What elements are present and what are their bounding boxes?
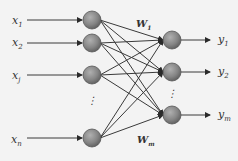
input-label-x2: x2: [12, 36, 23, 51]
input-arrows: [27, 20, 82, 138]
output-ellipsis: ⋮: [167, 88, 177, 99]
output-arrows: [181, 40, 210, 115]
connection-edges: [100, 20, 163, 138]
input-label-xn: xn: [11, 133, 22, 148]
input-labels: x1 x2 xj xn: [11, 14, 23, 148]
connection-edge: [100, 75, 163, 115]
output-label-y2: y2: [217, 65, 229, 80]
output-node: [163, 106, 181, 124]
connection-edge: [100, 20, 163, 72]
connection-edge: [100, 72, 163, 75]
output-label-y1: y1: [217, 33, 229, 48]
input-label-xj: xj: [12, 69, 21, 84]
neural-network-diagram: ⋮ ⋮ x1 x2 xj xn y1 y2 ym W1 Wm: [0, 0, 238, 161]
connection-edge: [100, 20, 163, 40]
output-label-ym: ym: [217, 108, 231, 123]
hidden-layer: [83, 11, 101, 147]
input-label-x1: x1: [12, 14, 23, 29]
network-graphic: ⋮ ⋮ x1 x2 xj xn y1 y2 ym W1 Wm: [0, 0, 238, 161]
output-node: [163, 31, 181, 49]
hidden-node: [83, 66, 101, 84]
output-node: [163, 63, 181, 81]
hidden-node: [83, 34, 101, 52]
connection-edge: [100, 40, 163, 138]
hidden-node: [83, 11, 101, 29]
output-layer: [163, 31, 181, 124]
weight-label-w1: W1: [136, 18, 151, 31]
output-labels: y1 y2 ym: [217, 33, 231, 123]
connection-edge: [100, 40, 163, 43]
hidden-ellipsis: ⋮: [87, 95, 97, 106]
connection-edge: [100, 40, 163, 75]
connection-edge: [100, 72, 163, 138]
weight-label-wm: Wm: [137, 134, 155, 147]
connection-edge: [100, 115, 163, 138]
hidden-node: [83, 129, 101, 147]
